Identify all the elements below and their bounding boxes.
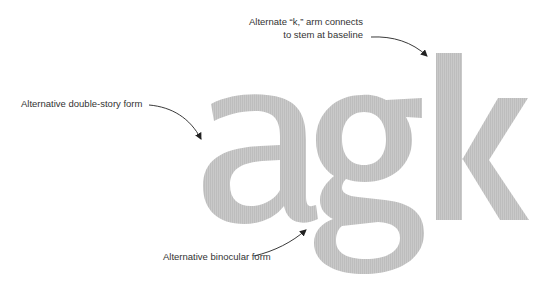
annotation-k-line2: to stem at baseline: [240, 28, 363, 41]
annotation-k-line1: Alternate “k,” arm connects: [240, 15, 363, 28]
arrow-a: [149, 105, 201, 139]
annotation-arrows: [0, 0, 556, 286]
annotation-g: Alternative binocular form: [163, 250, 271, 263]
annotation-k: Alternate “k,” arm connects to stem at b…: [240, 15, 363, 41]
arrow-k: [371, 37, 427, 56]
annotation-a: Alternative double-story form: [21, 97, 142, 110]
